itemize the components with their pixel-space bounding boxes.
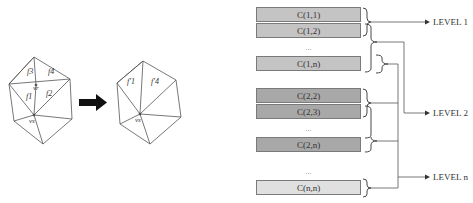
cell-c-1-1: C(1,1) [256, 7, 361, 22]
face-label-f1: f1 [26, 93, 32, 101]
level-2-label: LEVEL 2 [433, 108, 468, 118]
face-label-f-prime-1: f'1 [127, 78, 135, 86]
ellipsis: ... [256, 44, 361, 52]
mesh-before [9, 57, 72, 144]
arrowheads [425, 20, 430, 180]
face-label-f-prime-4: f'4 [151, 78, 159, 86]
face-label-f3: f3 [27, 68, 33, 76]
transform-arrow-icon [79, 94, 107, 111]
cell-c-1-n: C(1,n) [256, 56, 361, 71]
vertex-label-vs: vs [29, 117, 35, 125]
level-n-label: LEVEL n [433, 172, 468, 182]
diagram-canvas [0, 0, 473, 203]
face-label-f2: f2 [46, 90, 52, 98]
level-1-label: LEVEL 1 [433, 17, 468, 27]
vertex-label-vr: vr [33, 84, 39, 92]
vertex-label-vs-after: vs [135, 116, 141, 124]
face-label-f4: f4 [48, 68, 54, 76]
cell-c-2-n: C(2,n) [256, 137, 361, 152]
cell-c-1-2: C(1,2) [256, 23, 361, 38]
cell-c-2-2: C(2,2) [256, 88, 361, 103]
ellipsis: ... [256, 125, 361, 133]
mesh-after [117, 61, 181, 144]
ellipsis: ... [256, 168, 361, 176]
cell-c-2-3: C(2,3) [256, 104, 361, 119]
cell-c-n-n: C(n,n) [256, 180, 361, 195]
connector-lines [371, 22, 425, 188]
brackets [363, 8, 388, 197]
